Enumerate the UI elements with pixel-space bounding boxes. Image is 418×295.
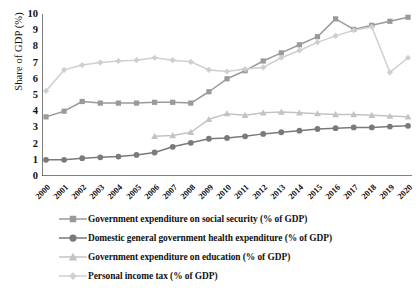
data-point-marker [98, 101, 103, 106]
data-point-marker [297, 42, 302, 47]
data-point-marker [116, 101, 121, 106]
legend-label: Domestic general government health expen… [88, 233, 332, 243]
data-point-marker [206, 67, 212, 73]
chart-container: Share of GDP (%) 012345678910 2000200120… [0, 0, 418, 295]
data-point-marker [79, 155, 85, 161]
legend-item-3[interactable]: Personal income tax (% of GDP) [58, 267, 408, 285]
y-tick-3: 3 [20, 122, 38, 133]
y-tick-2: 2 [20, 138, 38, 149]
x-tick-2005: 2005 [124, 182, 143, 201]
x-tick-2002: 2002 [69, 182, 88, 201]
data-point-marker [133, 57, 139, 63]
x-tick-2008: 2008 [178, 182, 197, 201]
x-tick-2019: 2019 [377, 182, 396, 201]
x-tick-2006: 2006 [142, 182, 161, 201]
data-point-marker [333, 125, 339, 131]
data-point-marker [315, 34, 320, 39]
data-point-marker [206, 136, 212, 142]
y-tick-5: 5 [20, 90, 38, 101]
series-1 [43, 123, 411, 163]
x-tick-2017: 2017 [341, 182, 360, 201]
data-point-marker [80, 99, 85, 104]
legend-marker-square-icon [58, 212, 88, 226]
data-point-marker [134, 101, 139, 106]
data-point-marker [387, 124, 393, 130]
data-point-marker [134, 152, 140, 158]
x-tick-2007: 2007 [160, 182, 179, 201]
x-tick-2010: 2010 [214, 182, 233, 201]
chart-legend: Government expenditure on social securit… [58, 210, 408, 286]
y-axis-tick-labels: 012345678910 [18, 0, 38, 295]
data-point-marker [188, 140, 194, 146]
data-point-marker [351, 125, 357, 131]
data-point-marker [152, 100, 157, 105]
x-axis-tick-labels: 2000200120022003200420052006200720082009… [42, 178, 418, 212]
y-tick-10: 10 [20, 9, 38, 20]
x-tick-2020: 2020 [395, 182, 414, 201]
data-point-marker [170, 144, 176, 150]
data-point-marker [333, 33, 339, 39]
data-point-marker [61, 157, 67, 163]
data-point-marker [43, 157, 49, 163]
plot-area [42, 14, 412, 176]
data-point-marker [296, 47, 302, 53]
x-tick-2018: 2018 [359, 182, 378, 201]
y-tick-1: 1 [20, 155, 38, 166]
legend-marker-triangle-icon [58, 250, 88, 264]
y-tick-9: 9 [20, 25, 38, 36]
legend-marker-diamond-icon [58, 269, 88, 283]
data-point-marker [387, 19, 392, 24]
data-point-marker [278, 55, 284, 61]
series-3 [43, 24, 411, 94]
data-point-marker [261, 58, 266, 63]
data-point-marker [297, 128, 303, 134]
x-tick-2001: 2001 [51, 182, 70, 201]
data-point-marker [314, 39, 320, 45]
data-point-marker [333, 16, 338, 21]
data-point-marker [116, 154, 122, 160]
legend-label: Government expenditure on education (% o… [88, 252, 290, 262]
legend-marker-circle-icon [58, 231, 88, 245]
data-point-marker [224, 135, 230, 141]
legend-item-1[interactable]: Domestic general government health expen… [58, 229, 408, 247]
data-point-marker [369, 125, 375, 131]
x-tick-2004: 2004 [105, 182, 124, 201]
data-point-marker [188, 101, 193, 106]
y-tick-4: 4 [20, 106, 38, 117]
data-point-marker [170, 57, 176, 63]
legend-label: Government expenditure on social securit… [88, 214, 307, 224]
y-tick-6: 6 [20, 74, 38, 85]
legend-item-2[interactable]: Government expenditure on education (% o… [58, 248, 408, 266]
x-tick-2009: 2009 [196, 182, 215, 201]
legend-item-0[interactable]: Government expenditure on social securit… [58, 210, 408, 228]
x-tick-2015: 2015 [305, 182, 324, 201]
y-tick-8: 8 [20, 41, 38, 52]
y-tick-7: 7 [20, 57, 38, 68]
x-tick-2003: 2003 [87, 182, 106, 201]
data-point-marker [405, 15, 410, 20]
legend-label: Personal income tax (% of GDP) [88, 271, 217, 281]
data-point-marker [242, 133, 248, 139]
x-tick-2014: 2014 [286, 182, 305, 201]
data-point-marker [79, 62, 85, 68]
data-point-marker [278, 129, 284, 135]
data-point-marker [62, 109, 67, 114]
y-tick-0: 0 [20, 171, 38, 182]
data-point-marker [405, 123, 411, 129]
x-tick-2011: 2011 [232, 182, 251, 201]
data-point-marker [43, 114, 48, 119]
x-tick-2013: 2013 [268, 182, 287, 201]
data-point-marker [170, 100, 175, 105]
data-point-marker [97, 154, 103, 160]
data-point-marker [152, 55, 158, 61]
data-point-marker [206, 89, 211, 94]
data-point-marker [315, 126, 321, 132]
data-point-marker [260, 64, 266, 70]
data-point-marker [188, 59, 194, 65]
data-point-marker [224, 76, 229, 81]
x-tick-2016: 2016 [323, 182, 342, 201]
data-point-marker [152, 150, 158, 156]
data-point-marker [260, 131, 266, 137]
series-canvas [42, 14, 412, 176]
data-point-marker [97, 60, 103, 66]
